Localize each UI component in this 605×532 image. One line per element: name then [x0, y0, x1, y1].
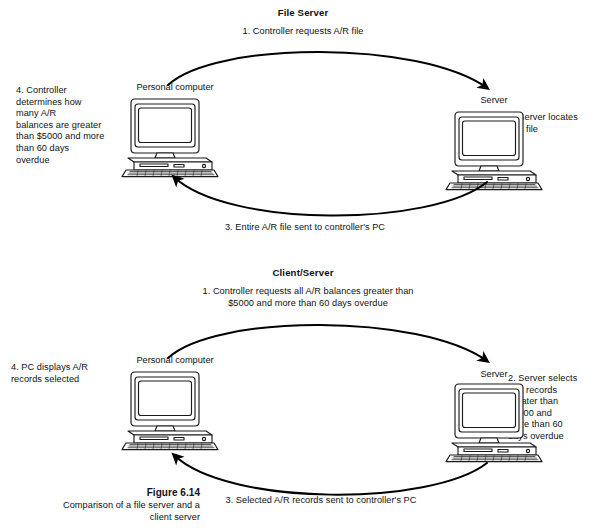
client-server-server-label: Server [452, 369, 536, 380]
file-server-server-label: Server [452, 95, 536, 106]
client-server-client-label: Personal computer [112, 355, 238, 366]
file-server-step-1: 1. Controller requests A/R file [183, 26, 423, 38]
file-server-client-label: Personal computer [112, 82, 238, 93]
client-server-step-1: 1. Controller requests all A/R balances … [163, 286, 453, 309]
figure-caption-line-2: client server [10, 512, 200, 524]
diagram-title-client-server: Client/Server [233, 267, 373, 279]
desktop-computer-icon [442, 109, 546, 191]
figure-page: File Server 1. Controller requests A/R f… [0, 0, 605, 532]
client-server-step-3: 3. Selected A/R records sent to controll… [186, 495, 456, 507]
file-server-step-3: 3. Entire A/R file sent to controller's … [175, 222, 435, 234]
curved-arrow-left-icon [174, 177, 487, 216]
desktop-computer-icon [442, 381, 546, 463]
diagram-title-file-server: File Server [233, 7, 373, 19]
desktop-computer-icon [118, 369, 222, 451]
curved-arrow-left-icon [174, 455, 487, 495]
figure-caption-line-1: Comparison of a file server and a [10, 500, 200, 512]
figure-caption-title: Figure 6.14 [20, 487, 200, 499]
desktop-computer-icon [118, 96, 222, 178]
